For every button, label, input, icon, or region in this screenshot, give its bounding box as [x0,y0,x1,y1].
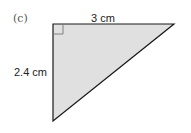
top-side-label: 3 cm [91,12,115,24]
part-label: (c) [13,12,28,25]
left-side-label: 2.4 cm [14,66,47,78]
right-triangle [53,24,174,121]
triangle-diagram: (c) 3 cm 2.4 cm [0,0,191,133]
